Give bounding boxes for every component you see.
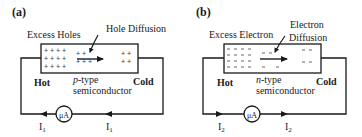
thermoelectric-diagram: (a) + + + + + + + + + + + + + + + + + + … [0,0,362,137]
panel-a-diffusion-label: Hole Diffusion [106,23,166,34]
panel-b-material-line2: semiconductor [256,85,316,96]
panel-b: (b) Excess Electron Electron Diffusio [196,5,346,134]
panel-a-material-line2: semiconductor [73,85,133,96]
panel-a-hole-cluster-cold: + + + + [121,50,131,65]
panel-a-ammeter-icon: μA [56,106,72,122]
panel-a-hot-label: Hot [34,77,51,88]
svg-text:+ + + +: + + + + [44,55,66,62]
panel-a-cold-label: Cold [133,76,154,87]
panel-a-label: (a) [12,5,26,19]
svg-text:+ +: + + [76,50,86,57]
panel-b-hot-label: Hot [217,77,234,88]
panel-b-current-label-2: I2 [285,121,292,134]
svg-text:+ +: + + [121,50,131,57]
panel-b-ammeter-icon: μA [244,106,260,122]
panel-a-excess-label: Excess Holes [27,29,81,40]
panel-a-current-arrow-icon-1 [40,111,47,117]
panel-a: (a) + + + + + + + + + + + + + + + + + + … [12,5,166,134]
panel-a-current-label-1: I1 [39,121,46,134]
svg-text:+ + + +: + + + + [44,47,66,54]
panel-a-hole-cluster-hot: + + + + + + + + + + + + [44,47,66,70]
panel-b-cold-label: Cold [316,76,337,87]
panel-a-material-type: p-type [72,74,99,85]
svg-text:+ +: + + [121,58,131,65]
panel-a-current-arrow-icon-2 [105,111,112,117]
svg-text:μA: μA [59,111,69,120]
panel-b-diffusion-label-line1: Electron [290,19,324,30]
panel-b-label: (b) [196,5,211,19]
panel-b-current-arrow-icon-2 [281,111,288,117]
panel-b-current-label-1: I2 [218,121,225,134]
panel-b-current-arrow-icon-1 [216,111,223,117]
panel-b-material-type: n-type [256,74,282,85]
svg-text:+ + + +: + + + + [44,63,66,70]
panel-b-excess-label: Excess Electron [209,29,273,40]
panel-a-current-label-2: I1 [106,121,113,134]
svg-text:μA: μA [247,111,257,120]
panel-b-diffusion-label-line2: Diffusion [289,32,327,43]
